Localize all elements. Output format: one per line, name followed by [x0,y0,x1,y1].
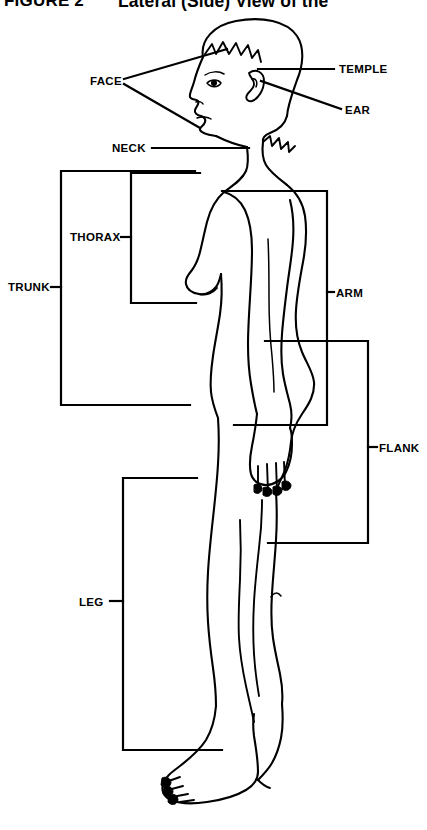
label-face: FACE [90,75,122,87]
ear-outline [246,71,264,101]
fingertip-2 [263,487,272,496]
trunk-callout-box [61,171,195,405]
face-leader-lower [124,84,200,128]
label-neck: NECK [112,142,146,154]
front-torso-contour [186,192,224,294]
flank-callout-box [265,341,368,543]
jaw-line [216,136,247,147]
far-heel [258,780,270,788]
eyebrow [205,72,224,75]
region-labels: FACE TEMPLE EAR NECK THORAX TRUNK ARM FL… [8,63,420,608]
label-temple: TEMPLE [339,63,387,75]
nostril [196,102,203,104]
back-contour [287,185,314,442]
back-leg-contour [271,492,282,704]
thorax-callout-box [131,173,200,303]
label-arm: ARM [336,287,363,299]
toe-line-4 [180,800,194,802]
toenail-3 [168,794,178,804]
label-trunk: TRUNK [8,281,50,293]
hair-nape-edge [263,136,295,152]
fingertip-1 [254,484,262,493]
label-leg: LEG [79,596,104,608]
label-thorax: THORAX [70,231,120,243]
arm-front-contour [224,192,257,414]
front-thigh-contour [207,418,219,706]
callout-boxes [61,171,368,750]
arm-back-contour [281,200,293,428]
anatomy-diagram: FACE TEMPLE EAR NECK THORAX TRUNK ARM FL… [0,0,427,830]
eye-pupil [211,80,216,85]
near-foot-outline [162,706,258,803]
abdomen-contour [211,274,222,418]
arm-inner-crease [268,239,274,392]
fingertip-4 [282,481,291,490]
label-ear: EAR [345,104,371,116]
near-leg-back [239,520,254,722]
label-flank: FLANK [379,442,420,454]
face-leader-upper [124,49,227,79]
figure-page: FIGURE 2 Lateral (Side) View of the [0,0,427,830]
neck-front [224,147,248,192]
human-figure [161,19,314,804]
far-foot-outline [258,704,283,780]
neck-back [262,142,287,185]
far-leg-front [253,500,262,696]
ear-leader [261,81,341,109]
